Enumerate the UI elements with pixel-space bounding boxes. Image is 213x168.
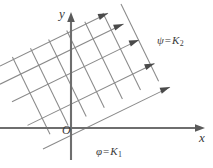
y-axis-label: y xyxy=(59,7,65,20)
psi-family-label: ψ=K2 xyxy=(157,35,184,48)
x-axis-label: x xyxy=(199,131,205,144)
psi-equals-sign: = xyxy=(164,34,172,46)
psi-line xyxy=(0,24,124,84)
phi-family-label: φ=K1 xyxy=(96,146,122,159)
y-axis-arrowhead-icon xyxy=(67,12,75,22)
psi-line xyxy=(43,87,170,149)
figure-canvas: y x O ψ=K2 φ=K1 xyxy=(0,0,213,168)
psi-arrowhead-icon xyxy=(113,24,123,31)
coordinate-grid-diagram xyxy=(0,0,213,168)
phi-family-lines xyxy=(12,4,158,134)
psi-line xyxy=(28,64,155,126)
psi-subscript: 2 xyxy=(179,39,183,48)
origin-label: O xyxy=(62,124,71,136)
psi-symbol: ψ xyxy=(157,34,164,46)
psi-arrowhead-icon xyxy=(160,87,170,94)
phi-constant: K xyxy=(110,145,117,157)
psi-arrowhead-icon xyxy=(129,40,139,47)
phi-subscript: 1 xyxy=(118,150,122,159)
phi-line xyxy=(121,4,159,81)
psi-arrowhead-icon xyxy=(98,13,108,20)
